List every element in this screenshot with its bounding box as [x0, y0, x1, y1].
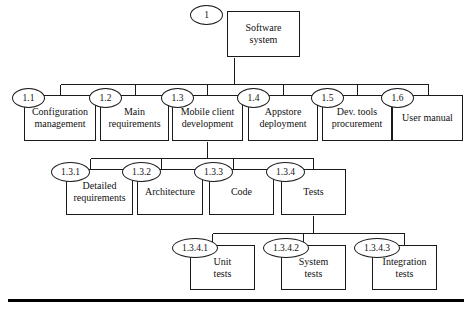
node-label-1-3-4: Tests [303, 186, 323, 198]
node-id-1-3-1: 1.3.1 [51, 162, 90, 182]
node-label-1: Software system [245, 22, 281, 46]
node-box-1[interactable]: Software system [227, 11, 300, 57]
node-id-1-6: 1.6 [381, 88, 414, 108]
node-label-1-3-2: Architecture [145, 186, 195, 198]
node-id-1-3-3: 1.3.3 [194, 162, 233, 182]
node-label-1-5: Dev. tools procurement [332, 106, 383, 130]
node-label-1-4: Appstore deployment [259, 106, 306, 130]
wbs-diagram: Software system1Configuration management… [0, 0, 472, 312]
node-label-1-3: Mobile client development [181, 106, 235, 130]
node-id-1-3-4: 1.3.4 [266, 162, 305, 182]
node-label-1-6: User manual [402, 112, 453, 124]
node-label-1-1: Configuration management [32, 106, 88, 130]
node-id-1-3-2: 1.3.2 [122, 162, 161, 182]
node-label-1-3-3: Code [231, 186, 252, 198]
node-label-1-2: Main requirements [108, 106, 160, 130]
bottom-rule [8, 299, 464, 302]
node-id-1-4: 1.4 [237, 88, 270, 108]
node-id-1-3: 1.3 [161, 88, 194, 108]
node-label-1-3-4-2: System tests [299, 256, 328, 280]
node-id-1-3-4-2: 1.3.4.2 [263, 238, 309, 258]
node-id-1-5: 1.5 [311, 88, 344, 108]
node-label-1-3-4-3: Integration tests [383, 256, 427, 280]
node-label-1-3-1: Detailed requirements [73, 180, 125, 204]
node-id-1-3-4-1: 1.3.4.1 [172, 238, 218, 258]
node-id-1-2: 1.2 [89, 88, 122, 108]
node-id-1-3-4-3: 1.3.4.3 [354, 238, 400, 258]
node-id-1: 1 [190, 5, 223, 25]
node-label-1-3-4-1: Unit tests [214, 256, 232, 280]
node-id-1-1: 1.1 [12, 88, 45, 108]
